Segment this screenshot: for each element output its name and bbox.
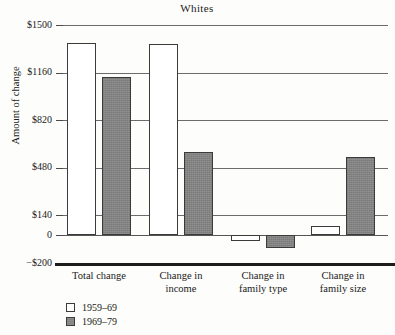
gridline bbox=[63, 73, 388, 74]
gridline bbox=[63, 25, 388, 26]
y-axis-tick-label: 0 bbox=[0, 229, 52, 240]
bar-0-series-1 bbox=[102, 77, 131, 235]
legend-label: 1959–69 bbox=[82, 302, 117, 313]
y-axis-tick-mark bbox=[56, 120, 63, 121]
y-axis-tick-label: −$200 bbox=[0, 257, 52, 268]
zero-line bbox=[63, 235, 388, 236]
x-axis-label-2: Change infamily type bbox=[218, 270, 308, 295]
bar-1-series-0 bbox=[149, 44, 178, 235]
y-axis-tick-label: $1160 bbox=[0, 66, 52, 77]
x-axis-label-line: family size bbox=[298, 283, 388, 296]
x-axis-label-line: Change in bbox=[218, 270, 308, 283]
y-axis-tick-label: $140 bbox=[0, 209, 52, 220]
x-axis-label-line: Total change bbox=[54, 270, 144, 283]
bar-0-series-0 bbox=[67, 43, 96, 236]
x-axis-line bbox=[55, 263, 395, 266]
y-axis-label: Amount of change bbox=[10, 41, 21, 171]
legend-item: 1959–69 bbox=[66, 300, 117, 314]
y-axis-tick-label: $480 bbox=[0, 161, 52, 172]
y-axis-tick-mark bbox=[56, 73, 63, 74]
x-axis-label-line: Change in bbox=[298, 270, 388, 283]
y-axis-tick-mark bbox=[56, 25, 63, 26]
legend-swatch-1959-69-icon bbox=[66, 303, 75, 312]
x-axis-label-1: Change inincome bbox=[136, 270, 226, 295]
bar-2-series-0 bbox=[231, 235, 260, 241]
x-axis-label-3: Change infamily size bbox=[298, 270, 388, 295]
plot-area: $1500$1160$820$480$1400−$200 bbox=[63, 20, 388, 268]
x-axis-label-0: Total change bbox=[54, 270, 144, 283]
bar-3-series-1 bbox=[346, 157, 375, 235]
y-axis-tick-mark bbox=[56, 215, 63, 216]
legend-swatch-1969-79-icon bbox=[66, 317, 75, 326]
x-axis-label-line: Change in bbox=[136, 270, 226, 283]
y-axis-tick-label: $820 bbox=[0, 114, 52, 125]
legend-label: 1969–79 bbox=[82, 316, 117, 327]
bar-3-series-0 bbox=[311, 226, 340, 235]
legend-item: 1969–79 bbox=[66, 314, 117, 328]
bar-2-series-1 bbox=[266, 235, 295, 248]
x-axis-label-line: income bbox=[136, 283, 226, 296]
x-axis-label-line: family type bbox=[218, 283, 308, 296]
y-axis-tick-mark bbox=[56, 168, 63, 169]
bar-1-series-1 bbox=[184, 152, 213, 235]
y-axis-tick-mark bbox=[56, 235, 63, 236]
chart-title: Whites bbox=[0, 2, 394, 14]
legend: 1959–69 1969–79 bbox=[66, 300, 117, 328]
y-axis-tick-label: $1500 bbox=[0, 19, 52, 30]
